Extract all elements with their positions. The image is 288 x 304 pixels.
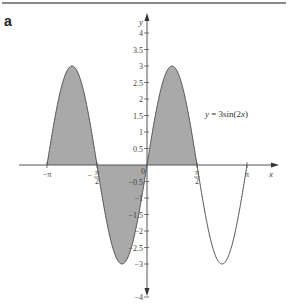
y-tick-label: −2.5: [128, 244, 143, 253]
x-tick-label-sign: −: [87, 171, 92, 180]
x-tick-label-numerator: π: [95, 168, 99, 177]
chart: 43.532.521.510.5−0.5−1−1.5−2−2.5−3−4−π−π…: [0, 0, 288, 304]
y-tick-label: −0.5: [128, 178, 143, 187]
y-tick-label: −1: [134, 194, 143, 203]
x-tick-label: 0: [141, 167, 145, 176]
x-tick-label-numerator: π: [195, 168, 199, 177]
y-tick-label: −4: [134, 293, 143, 302]
y-tick-label: −2: [134, 227, 143, 236]
y-tick-label: −3: [134, 260, 143, 269]
x-tick-label: −π: [43, 170, 52, 179]
y-tick-label: 4: [139, 29, 143, 38]
y-tick-label: −1.5: [128, 211, 143, 220]
y-tick-label: 0.5: [133, 145, 143, 154]
y-tick-label: 3.5: [133, 46, 143, 55]
y-tick-label: 2.5: [133, 79, 143, 88]
x-tick-label-denominator: 2: [95, 177, 99, 186]
y-tick-label: 1: [139, 128, 143, 137]
y-tick-label: 1.5: [133, 112, 143, 121]
y-axis-arrow-down: [145, 288, 150, 296]
y-tick-label: 3: [139, 62, 143, 71]
x-axis-label: x: [268, 169, 273, 179]
x-tick-label-denominator: 2: [195, 177, 199, 186]
equation-annotation: y = 3sin(2x): [204, 109, 248, 119]
y-axis-arrow: [145, 13, 150, 21]
y-axis-label: y: [138, 17, 143, 27]
y-tick-label: 2: [139, 95, 143, 104]
x-tick-label: π: [245, 170, 249, 179]
x-axis-arrow: [271, 163, 279, 168]
